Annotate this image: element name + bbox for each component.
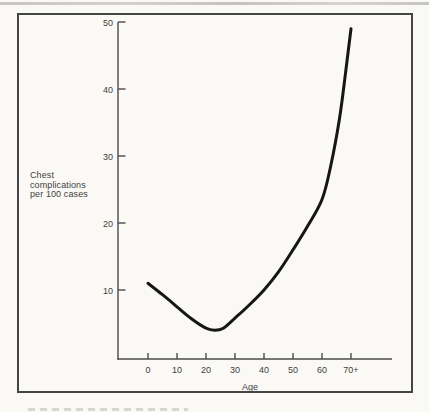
y-tick-label-20: 20	[103, 219, 113, 229]
y-axis-title-line3: per 100 cases	[30, 190, 88, 200]
x-tick-label-70+: 70+	[343, 365, 358, 375]
x-tick-label-50: 50	[288, 365, 298, 375]
chest-complications-chart: 010203040506070+1020304050 Age	[0, 0, 429, 412]
scanned-page: 010203040506070+1020304050 Age Chest com…	[0, 0, 429, 412]
x-axis-title: Age	[242, 382, 258, 392]
x-tick-label-0: 0	[145, 365, 150, 375]
x-tick-label-40: 40	[259, 365, 269, 375]
y-axis-title: Chest complications per 100 cases	[30, 171, 88, 200]
x-tick-label-30: 30	[230, 365, 240, 375]
scan-artifact-caption-cutoff	[28, 408, 188, 411]
y-tick-label-50: 50	[103, 18, 113, 28]
x-tick-label-10: 10	[172, 365, 182, 375]
complication-curve	[148, 29, 351, 331]
x-tick-label-60: 60	[317, 365, 327, 375]
y-tick-label-40: 40	[103, 85, 113, 95]
axis-ticks	[118, 22, 351, 359]
y-tick-label-30: 30	[103, 152, 113, 162]
y-tick-label-10: 10	[103, 286, 113, 296]
x-tick-label-20: 20	[201, 365, 211, 375]
